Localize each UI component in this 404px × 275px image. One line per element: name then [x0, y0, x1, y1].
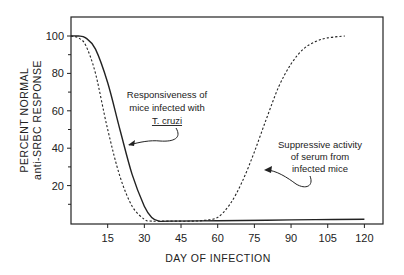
arrow-to-responsiveness-curve	[129, 128, 178, 145]
y-tick-label: 40	[52, 142, 64, 154]
y-axis-title-line1: PERCENT NORMAL	[18, 68, 30, 173]
y-tick-label: 60	[52, 105, 64, 117]
responsiveness-curve	[71, 36, 364, 222]
y-tick-label: 20	[52, 180, 64, 192]
x-tick-label: 120	[355, 232, 373, 244]
annotation-suppressive-line2: of serum from	[291, 151, 350, 162]
y-tick-label: 80	[52, 67, 64, 79]
y-tick-label: 100	[46, 30, 64, 42]
arrowhead-icon	[264, 166, 272, 173]
y-axis-title-line2: anti-SRBC RESPONSE	[31, 60, 43, 180]
y-axis-ticks: 20406080100	[46, 30, 71, 204]
x-tick-label: 15	[102, 232, 114, 244]
chart: 20406080100 153045607590105120 PERCENT N…	[0, 0, 404, 275]
x-tick-label: 105	[319, 232, 337, 244]
suppressive-activity-curve	[71, 36, 345, 221]
x-tick-label: 45	[175, 232, 187, 244]
annotation-responsiveness-line1: Responsiveness of	[127, 89, 208, 100]
x-tick-label: 30	[138, 232, 150, 244]
x-tick-label: 90	[285, 232, 297, 244]
annotation-suppressive-line1: Suppressive activity	[278, 139, 362, 150]
arrowhead-icon	[128, 140, 135, 146]
x-tick-label: 75	[248, 232, 260, 244]
x-tick-label: 60	[212, 232, 224, 244]
annotation-responsiveness-line2: mice infected with	[129, 102, 205, 113]
x-axis-ticks: 153045607590105120	[102, 224, 374, 244]
x-axis-title: DAY OF INFECTION	[165, 252, 271, 264]
annotation-responsiveness-species: T. cruzi	[152, 115, 182, 126]
annotation-suppressive-line3: infected mice	[292, 163, 348, 174]
